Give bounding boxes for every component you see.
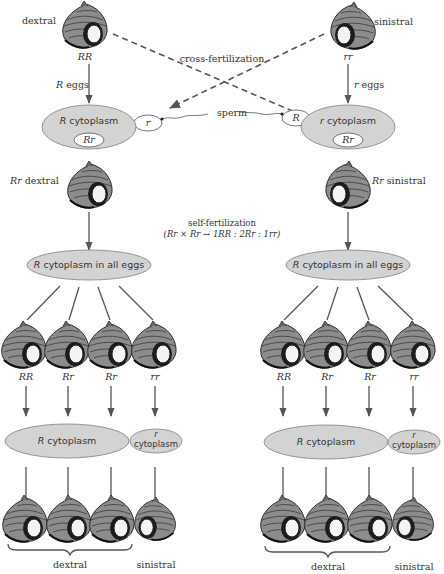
dextral-shell-icon xyxy=(63,1,107,48)
cross-line-sinistral-to-left xyxy=(170,34,324,108)
f2-shell-icon xyxy=(2,321,46,368)
self-fert-title: self-fertilization xyxy=(188,218,256,228)
f2-shell-icon xyxy=(45,321,89,368)
f2-arrows-left xyxy=(26,386,155,416)
f2-shell-icon xyxy=(261,321,305,368)
f3-dextral-shell-icon xyxy=(90,495,134,542)
f3-lines-right xyxy=(283,467,413,498)
f3-lines-left xyxy=(26,467,155,498)
f1-right-label: Rr sinistral xyxy=(371,175,426,186)
parent-left-genotype: RR xyxy=(77,51,92,62)
f2-genotype: rr xyxy=(150,371,161,382)
cross-line-dextral-to-right xyxy=(113,34,318,122)
f2-shell-icon xyxy=(132,321,176,368)
f2-genotype: Rr xyxy=(320,371,334,382)
f2-shell-icon xyxy=(304,321,348,368)
zygote-left-nucleus: Rr xyxy=(82,134,96,145)
parent-sinistral-group: sinistral rr xyxy=(331,2,413,62)
f3-left-sinistral-label: sinistral xyxy=(136,559,175,570)
f3-right-row xyxy=(261,495,434,542)
sperm-left: r xyxy=(134,114,208,131)
sperm-right-allele: R xyxy=(291,112,299,123)
f2-shell-icon xyxy=(391,321,435,368)
cross-fertilization-label: cross-fertilization xyxy=(180,53,265,64)
f1-sinistral-shell-icon xyxy=(326,161,370,208)
f3-right-dextral-label: dextral xyxy=(311,561,345,572)
parent-dextral-group: dextral RR xyxy=(22,1,107,62)
sinistral-shell-icon xyxy=(331,2,375,49)
zygote-left: R cytoplasm Rr xyxy=(42,105,136,149)
parent-left-phenotype: dextral xyxy=(22,15,56,26)
f2-genotype: RR xyxy=(276,371,291,382)
egg-pool-left-label: R cytoplasm in all eggs xyxy=(34,259,144,270)
f2-small-cytoplasm-label: cytoplasm xyxy=(134,439,178,449)
f1-dextral-shell-icon xyxy=(68,161,112,208)
zygote-right-nucleus: Rr xyxy=(341,134,355,145)
f2-small-cytoplasm-allele: r xyxy=(154,429,158,439)
maternal-inheritance-diagram: dextral RR sinistral rr R eggs r eggs cr… xyxy=(0,0,444,574)
f2-shell-icon xyxy=(88,321,132,368)
f2-small-cytoplasm-label: cytoplasm xyxy=(392,440,436,450)
f2-big-cytoplasm-label: R cytoplasm xyxy=(297,436,356,447)
dextral-brace-left xyxy=(8,544,132,555)
f2-right-row: RR Rr Rr rr xyxy=(261,321,435,382)
f2-genotype: Rr xyxy=(363,371,377,382)
zygote-right-cytoplasm-label: r cytoplasm xyxy=(320,115,376,126)
f2-genotype: RR xyxy=(18,371,33,382)
dextral-brace-right xyxy=(265,546,390,557)
f2-small-cytoplasm-allele: r xyxy=(412,430,416,440)
sperm-right: R xyxy=(240,110,310,126)
f2-genotype: rr xyxy=(409,371,420,382)
f3-left-dextral-label: dextral xyxy=(53,559,87,570)
f2-arrows-right xyxy=(283,386,413,416)
f2-left-row: RR Rr Rr rr xyxy=(2,321,176,382)
fan-lines-left xyxy=(27,286,153,320)
f2-genotype: Rr xyxy=(104,371,118,382)
f3-dextral-shell-icon xyxy=(305,495,349,542)
zygote-right: r cytoplasm Rr xyxy=(301,105,395,149)
f2-shell-icon xyxy=(347,321,391,368)
f2-cytoplasm-left: R cytoplasm r cytoplasm xyxy=(5,424,182,458)
f3-sinistral-shell-icon xyxy=(393,497,434,540)
parent-right-genotype: rr xyxy=(343,51,354,62)
f3-dextral-shell-icon xyxy=(261,495,305,542)
f3-sinistral-shell-icon xyxy=(135,497,176,540)
right-eggs-label: r eggs xyxy=(354,79,384,90)
f2-cytoplasm-right: R cytoplasm r cytoplasm xyxy=(264,425,440,459)
parent-right-phenotype: sinistral xyxy=(374,16,413,27)
zygote-left-cytoplasm-label: R cytoplasm xyxy=(60,115,119,126)
egg-pool-right-label: R cytoplasm in all eggs xyxy=(293,259,403,270)
self-fert-formula: (Rr × Rr → 1RR : 2Rr : 1rr) xyxy=(164,229,281,239)
egg-pool-right: R cytoplasm in all eggs xyxy=(286,250,410,280)
f3-dextral-shell-icon xyxy=(3,495,47,542)
f3-dextral-shell-icon xyxy=(348,495,392,542)
f2-genotype: Rr xyxy=(61,371,75,382)
left-eggs-label: R eggs xyxy=(55,79,89,90)
f2-big-cytoplasm-label: R cytoplasm xyxy=(38,435,97,446)
f3-right-sinistral-label: sinistral xyxy=(394,561,433,572)
f3-dextral-shell-icon xyxy=(47,495,91,542)
f1-left-label: Rr dextral xyxy=(9,175,59,186)
fan-lines-right xyxy=(284,286,413,320)
egg-pool-left: R cytoplasm in all eggs xyxy=(27,250,151,280)
f3-left-row xyxy=(3,495,176,542)
